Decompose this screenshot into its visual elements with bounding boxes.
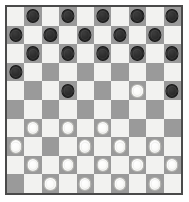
board-square-g9[interactable] bbox=[111, 26, 128, 45]
dark-piece[interactable] bbox=[166, 84, 179, 98]
board-square-h4[interactable] bbox=[129, 119, 146, 138]
board-square-d10[interactable] bbox=[59, 7, 76, 26]
light-piece[interactable] bbox=[79, 139, 92, 153]
board-square-h5[interactable] bbox=[129, 100, 146, 119]
board-square-j10[interactable] bbox=[164, 7, 181, 26]
board-square-j2[interactable] bbox=[164, 156, 181, 175]
board-square-b7[interactable] bbox=[24, 63, 41, 82]
dark-piece[interactable] bbox=[61, 46, 74, 60]
board-square-b6[interactable] bbox=[24, 81, 41, 100]
dark-piece[interactable] bbox=[96, 9, 109, 23]
dark-piece[interactable] bbox=[131, 46, 144, 60]
dark-piece[interactable] bbox=[148, 28, 161, 42]
dark-piece[interactable] bbox=[44, 28, 57, 42]
board-square-j4[interactable] bbox=[164, 119, 181, 138]
board-square-a1[interactable] bbox=[7, 174, 24, 193]
board-square-c1[interactable] bbox=[42, 174, 59, 193]
board-square-i6[interactable] bbox=[146, 81, 163, 100]
board-square-a7[interactable] bbox=[7, 63, 24, 82]
light-piece[interactable] bbox=[96, 158, 109, 172]
dark-piece[interactable] bbox=[96, 46, 109, 60]
board-square-b5[interactable] bbox=[24, 100, 41, 119]
board-square-h1[interactable] bbox=[129, 174, 146, 193]
board-square-e8[interactable] bbox=[77, 44, 94, 63]
board-square-g6[interactable] bbox=[111, 81, 128, 100]
board-square-g4[interactable] bbox=[111, 119, 128, 138]
board-square-i5[interactable] bbox=[146, 100, 163, 119]
board-square-d6[interactable] bbox=[59, 81, 76, 100]
board-square-e5[interactable] bbox=[77, 100, 94, 119]
board-square-c8[interactable] bbox=[42, 44, 59, 63]
board-square-d2[interactable] bbox=[59, 156, 76, 175]
board-square-a2[interactable] bbox=[7, 156, 24, 175]
board-square-h7[interactable] bbox=[129, 63, 146, 82]
board-square-e4[interactable] bbox=[77, 119, 94, 138]
dark-piece[interactable] bbox=[26, 46, 39, 60]
board-square-i1[interactable] bbox=[146, 174, 163, 193]
board-square-g1[interactable] bbox=[111, 174, 128, 193]
board-square-i7[interactable] bbox=[146, 63, 163, 82]
light-piece[interactable] bbox=[131, 84, 144, 98]
board-square-e10[interactable] bbox=[77, 7, 94, 26]
board-square-d7[interactable] bbox=[59, 63, 76, 82]
board-square-h8[interactable] bbox=[129, 44, 146, 63]
board-grid[interactable] bbox=[7, 7, 181, 193]
board-square-g7[interactable] bbox=[111, 63, 128, 82]
board-square-h3[interactable] bbox=[129, 137, 146, 156]
board-square-j7[interactable] bbox=[164, 63, 181, 82]
board-square-h2[interactable] bbox=[129, 156, 146, 175]
light-piece[interactable] bbox=[148, 139, 161, 153]
board-square-h6[interactable] bbox=[129, 81, 146, 100]
board-square-g5[interactable] bbox=[111, 100, 128, 119]
board-square-j9[interactable] bbox=[164, 26, 181, 45]
board-square-f3[interactable] bbox=[94, 137, 111, 156]
board-square-d1[interactable] bbox=[59, 174, 76, 193]
board-square-j3[interactable] bbox=[164, 137, 181, 156]
board-square-a4[interactable] bbox=[7, 119, 24, 138]
light-piece[interactable] bbox=[26, 121, 39, 135]
light-piece[interactable] bbox=[26, 158, 39, 172]
board-square-e3[interactable] bbox=[77, 137, 94, 156]
board-square-b3[interactable] bbox=[24, 137, 41, 156]
light-piece[interactable] bbox=[131, 158, 144, 172]
board-square-h10[interactable] bbox=[129, 7, 146, 26]
board-square-i4[interactable] bbox=[146, 119, 163, 138]
light-piece[interactable] bbox=[166, 158, 179, 172]
board-square-f5[interactable] bbox=[94, 100, 111, 119]
board-square-d4[interactable] bbox=[59, 119, 76, 138]
board-square-a6[interactable] bbox=[7, 81, 24, 100]
board-square-b1[interactable] bbox=[24, 174, 41, 193]
board-square-b10[interactable] bbox=[24, 7, 41, 26]
board-square-g2[interactable] bbox=[111, 156, 128, 175]
board-square-c3[interactable] bbox=[42, 137, 59, 156]
board-square-f1[interactable] bbox=[94, 174, 111, 193]
dark-piece[interactable] bbox=[61, 84, 74, 98]
board-square-i3[interactable] bbox=[146, 137, 163, 156]
board-square-a5[interactable] bbox=[7, 100, 24, 119]
light-piece[interactable] bbox=[61, 158, 74, 172]
board-square-j6[interactable] bbox=[164, 81, 181, 100]
board-square-g3[interactable] bbox=[111, 137, 128, 156]
light-piece[interactable] bbox=[61, 121, 74, 135]
board-square-c2[interactable] bbox=[42, 156, 59, 175]
board-square-c7[interactable] bbox=[42, 63, 59, 82]
board-square-f2[interactable] bbox=[94, 156, 111, 175]
board-square-f6[interactable] bbox=[94, 81, 111, 100]
light-piece[interactable] bbox=[148, 177, 161, 191]
dark-piece[interactable] bbox=[113, 28, 126, 42]
board-square-f4[interactable] bbox=[94, 119, 111, 138]
board-square-d5[interactable] bbox=[59, 100, 76, 119]
light-piece[interactable] bbox=[113, 177, 126, 191]
light-piece[interactable] bbox=[96, 121, 109, 135]
board-square-g10[interactable] bbox=[111, 7, 128, 26]
dark-piece[interactable] bbox=[131, 9, 144, 23]
board-square-c10[interactable] bbox=[42, 7, 59, 26]
board-square-b4[interactable] bbox=[24, 119, 41, 138]
board-square-b8[interactable] bbox=[24, 44, 41, 63]
board-square-d9[interactable] bbox=[59, 26, 76, 45]
board-square-f8[interactable] bbox=[94, 44, 111, 63]
board-square-d8[interactable] bbox=[59, 44, 76, 63]
board-square-a9[interactable] bbox=[7, 26, 24, 45]
dark-piece[interactable] bbox=[9, 28, 22, 42]
board-square-i8[interactable] bbox=[146, 44, 163, 63]
